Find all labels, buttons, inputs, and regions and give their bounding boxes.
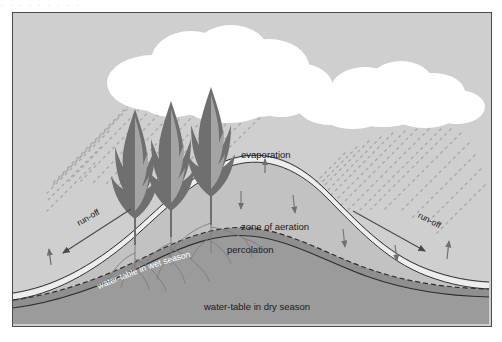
- zone-of-aeration-label: zone of aeration: [241, 221, 309, 232]
- cropped-text-above: · · · · · · · · ·: [0, 0, 502, 10]
- evaporation-label: evaporation: [241, 149, 291, 160]
- diagram-frame: water-table in wet season evaporation zo…: [12, 12, 492, 327]
- water-table-dry-label: water-table in dry season: [204, 301, 310, 312]
- water-table-diagram: water-table in wet season: [13, 13, 489, 324]
- page-root: · · · · · · · · ·: [0, 0, 502, 342]
- percolation-label: percolation: [227, 244, 273, 255]
